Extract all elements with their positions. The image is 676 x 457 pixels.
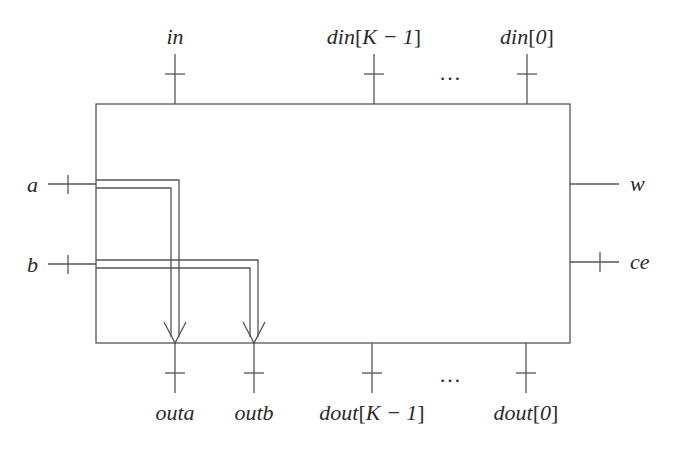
port-w: w — [570, 171, 645, 196]
port-dout-k-1: dout[K − 1] — [319, 343, 424, 425]
top-ellipsis: … — [439, 60, 461, 85]
label-b: b — [27, 252, 38, 277]
bottom-ellipsis: … — [439, 362, 461, 387]
label-in: in — [166, 24, 183, 49]
block-diagram: in din[K − 1] … din[0] a b w ce — [0, 0, 676, 457]
port-din-0: din[0] — [500, 24, 554, 104]
port-outa: outa — [155, 343, 194, 425]
port-b: b — [27, 252, 96, 277]
port-dout-0: dout[0] — [494, 343, 559, 425]
label-dout-k-1: dout[K − 1] — [319, 400, 424, 425]
label-din-0: din[0] — [500, 24, 554, 49]
port-in: in — [165, 24, 185, 104]
port-din-k-1: din[K − 1] — [327, 24, 421, 104]
label-dout-0: dout[0] — [494, 400, 559, 425]
path-b-to-outb — [96, 260, 265, 343]
label-outb: outb — [234, 400, 273, 425]
label-din-k-1: din[K − 1] — [327, 24, 421, 49]
label-a: a — [27, 172, 38, 197]
port-outb: outb — [234, 343, 273, 425]
port-a: a — [27, 172, 96, 197]
label-w: w — [630, 171, 645, 196]
port-ce: ce — [570, 249, 650, 274]
label-outa: outa — [155, 400, 194, 425]
main-block — [96, 104, 570, 343]
path-a-to-outa — [96, 180, 186, 343]
label-ce: ce — [630, 249, 650, 274]
